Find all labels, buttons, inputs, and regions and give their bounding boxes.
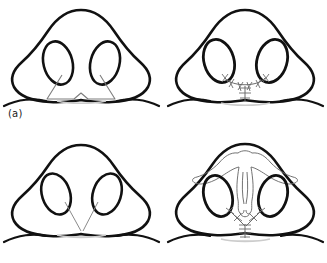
panel-d-illustration (164, 132, 327, 263)
alar-crease-right-d (281, 235, 323, 242)
panel-a-illustration (0, 0, 163, 131)
alar-crease-left-d (168, 235, 210, 242)
figure-container: (a) (0, 0, 327, 263)
upper-lip-shadow-d (221, 239, 270, 241)
nose-outline-d (176, 144, 313, 235)
nose-outline-c (12, 145, 149, 236)
panel-b: (b) (164, 0, 327, 131)
panel-label-a: (a) (8, 108, 23, 119)
panel-d: (d) (164, 132, 327, 263)
bottom-cropped-shapes (0, 257, 327, 263)
panel-a: (a) (0, 0, 163, 131)
panel-c-illustration (0, 132, 163, 263)
alar-crease-right-c (117, 235, 159, 242)
alar-crease-left-c (4, 235, 46, 242)
panel-c: (c) (0, 132, 163, 263)
alar-crease-left-b (168, 99, 210, 106)
alar-crease-right-b (281, 99, 323, 106)
panel-b-illustration (164, 0, 327, 131)
nose-outline-a (12, 10, 149, 102)
alar-crease-left-a (4, 99, 46, 106)
upper-lip-shadow-b (221, 103, 270, 105)
alar-crease-right-a (117, 99, 159, 106)
